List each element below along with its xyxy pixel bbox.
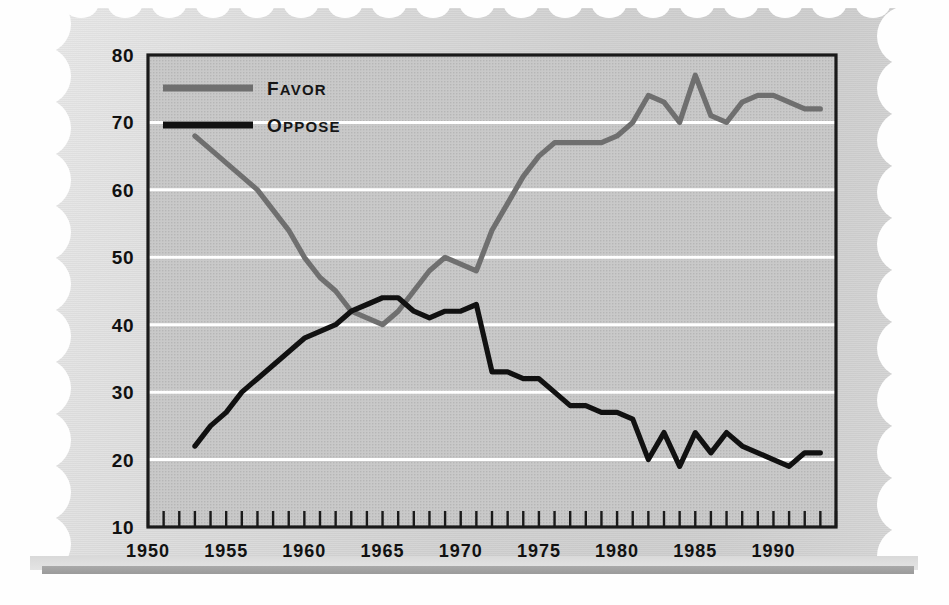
chart-page: 1020304050607080 19501955196019651970197… — [0, 0, 949, 605]
y-tick-label-20: 20 — [112, 450, 134, 471]
y-tick-label-70: 70 — [112, 112, 134, 133]
legend-label-oppose: OPPOSE — [267, 115, 341, 136]
x-tick-label-1980: 1980 — [595, 541, 639, 561]
x-tick-label-1985: 1985 — [673, 541, 717, 561]
y-tick-label-30: 30 — [112, 382, 134, 403]
y-axis-tick-labels: 1020304050607080 — [112, 45, 134, 538]
x-tick-label-1950: 1950 — [126, 541, 170, 561]
y-tick-label-60: 60 — [112, 180, 134, 201]
x-tick-label-1955: 1955 — [204, 541, 248, 561]
x-tick-label-1970: 1970 — [439, 541, 483, 561]
legend-label-favor: FAVOR — [267, 78, 327, 99]
x-axis-tick-labels: 195019551960196519701975198019851990 — [126, 541, 796, 561]
y-tick-label-80: 80 — [112, 45, 134, 66]
x-tick-label-1960: 1960 — [282, 541, 326, 561]
y-tick-label-40: 40 — [112, 315, 134, 336]
line-chart: 1020304050607080 19501955196019651970197… — [0, 0, 949, 605]
x-tick-label-1965: 1965 — [361, 541, 405, 561]
x-tick-label-1990: 1990 — [751, 541, 795, 561]
x-tick-label-1975: 1975 — [517, 541, 561, 561]
y-tick-label-50: 50 — [112, 247, 134, 268]
y-tick-label-10: 10 — [112, 517, 134, 538]
plot-area-wrapper: 1020304050607080 19501955196019651970197… — [0, 0, 949, 605]
